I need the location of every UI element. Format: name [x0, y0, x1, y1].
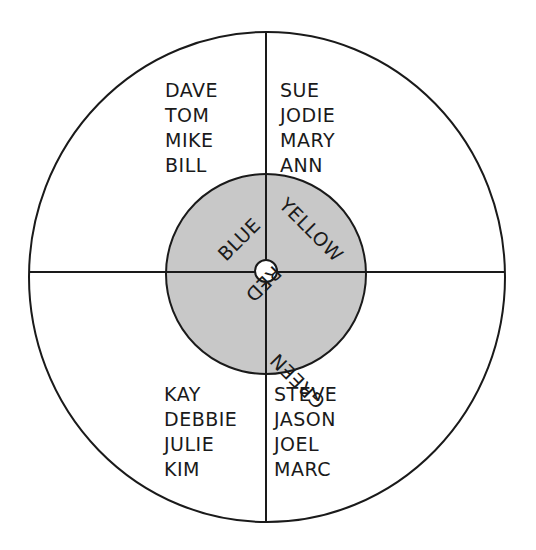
- name: KIM: [164, 457, 237, 482]
- name: KAY: [164, 382, 237, 407]
- name: DEBBIE: [164, 407, 237, 432]
- name: TOM: [165, 103, 218, 128]
- names-bottom-left: KAY DEBBIE JULIE KIM: [164, 382, 237, 482]
- name: BILL: [165, 153, 218, 178]
- names-top-right: SUE JODIE MARY ANN: [280, 78, 335, 178]
- names-top-left: DAVE TOM MIKE BILL: [165, 78, 218, 178]
- name: JASON: [274, 407, 337, 432]
- name: ANN: [280, 153, 335, 178]
- name: STEVE: [274, 382, 337, 407]
- names-bottom-right: STEVE JASON JOEL MARC: [274, 382, 337, 482]
- name: JULIE: [164, 432, 237, 457]
- name: SUE: [280, 78, 335, 103]
- name: MARY: [280, 128, 335, 153]
- name: MARC: [274, 457, 337, 482]
- name: JODIE: [280, 103, 335, 128]
- name: JOEL: [274, 432, 337, 457]
- name: MIKE: [165, 128, 218, 153]
- group-wheel-diagram: BLUE YELLOW RED GREEN: [0, 0, 536, 550]
- name: DAVE: [165, 78, 218, 103]
